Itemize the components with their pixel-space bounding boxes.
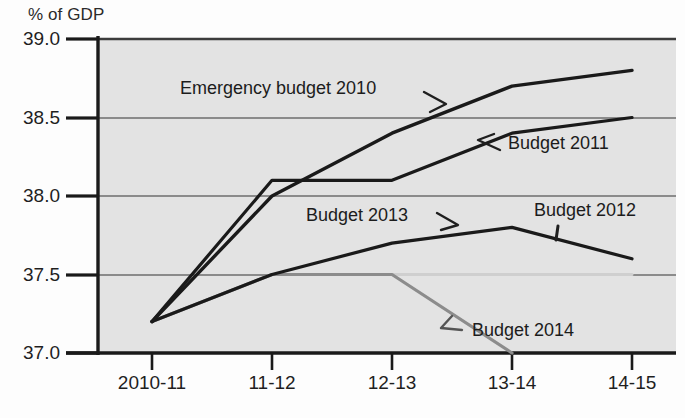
chart-container: % of GDP: [0, 0, 685, 418]
series-label-budget-2011: Budget 2011: [508, 133, 609, 154]
x-tick-label-14-15: 14-15: [608, 372, 657, 394]
y-axis-tick-labels: 39.0 38.5 38.0 37.5 37.0: [0, 0, 60, 418]
y-tick-label-39-0: 39.0: [4, 28, 60, 50]
series-label-emergency-budget-2010: Emergency budget 2010: [180, 78, 376, 99]
x-tick-marks: [152, 353, 632, 370]
series-label-budget-2014: Budget 2014: [472, 320, 574, 341]
y-tick-marks: [66, 39, 98, 353]
x-tick-label-12-13: 12-13: [368, 372, 417, 394]
y-tick-label-37-5: 37.5: [4, 264, 60, 286]
leader-budget-2012: [556, 226, 558, 240]
series-label-budget-2013: Budget 2013: [306, 205, 408, 226]
x-tick-label-13-14: 13-14: [488, 372, 537, 394]
y-tick-label-38-5: 38.5: [4, 107, 60, 129]
x-tick-label-11-12: 11-12: [248, 372, 295, 394]
x-tick-label-2010-11: 2010-11: [118, 372, 186, 394]
y-tick-label-37-0: 37.0: [4, 342, 60, 364]
series-label-budget-2012: Budget 2012: [534, 200, 636, 221]
y-tick-label-38-0: 38.0: [4, 185, 60, 207]
